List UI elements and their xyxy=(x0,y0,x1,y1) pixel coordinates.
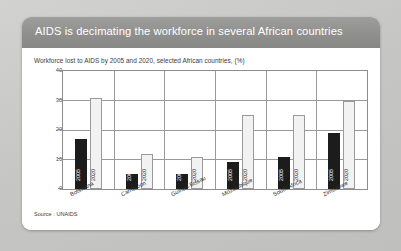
y-axis-tick-mark xyxy=(58,70,62,71)
plot-area: 2005202020052020200520202005202020052020… xyxy=(62,70,368,190)
group-separator xyxy=(114,71,115,189)
bar-year-label: 2005 xyxy=(278,169,284,181)
y-axis-tick-mark xyxy=(58,188,62,189)
bar-year-label: 2005 xyxy=(176,169,182,181)
bar-zimbabwe-2005: 2005 xyxy=(328,133,340,189)
bar-year-label: 2005 xyxy=(227,169,233,181)
source-note: Source : UNAIDS xyxy=(34,211,78,217)
chart-subtitle: Workforce lost to AIDS by 2005 and 2020,… xyxy=(34,57,245,64)
slide-card: AIDS is decimating the workforce in seve… xyxy=(22,17,380,230)
card-header-bar: AIDS is decimating the workforce in seve… xyxy=(22,17,380,48)
page-title: AIDS is decimating the workforce in seve… xyxy=(35,25,343,37)
bar-year-label: 2005 xyxy=(126,169,132,181)
bar-year-label: 2005 xyxy=(328,169,334,181)
bar-year-label: 2005 xyxy=(75,169,81,181)
bar-botswana-2020: 2020 xyxy=(90,98,102,189)
group-separator xyxy=(316,71,317,189)
bar-zimbabwe-2020: 2020 xyxy=(343,101,355,190)
y-axis-tick-mark xyxy=(58,158,62,159)
card-body: Workforce lost to AIDS by 2005 and 2020,… xyxy=(22,48,380,230)
y-axis-tick-mark xyxy=(58,129,62,130)
group-separator xyxy=(215,71,216,189)
bar-botswana-2005: 2005 xyxy=(75,139,87,189)
bar-year-label: 2020 xyxy=(90,169,96,181)
bar-chart: 2005202020052020200520202005202020052020… xyxy=(34,70,368,190)
group-separator xyxy=(164,71,165,189)
y-axis-tick-mark xyxy=(58,99,62,100)
group-separator xyxy=(266,71,267,189)
